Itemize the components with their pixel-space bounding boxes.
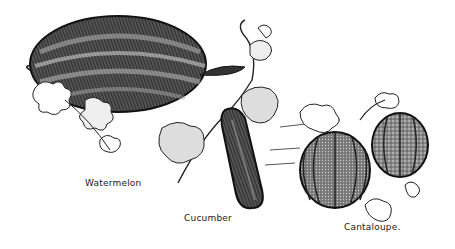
- illustration-canvas: Watermelon Cucumber Cantaloupe.: [0, 0, 455, 249]
- cantaloupe-label: Cantaloupe.: [344, 222, 401, 232]
- cantaloupe-drawing: [265, 93, 428, 222]
- engraving-artwork: [0, 0, 455, 249]
- cucumber-label: Cucumber: [184, 213, 232, 223]
- watermelon-label: Watermelon: [85, 178, 141, 188]
